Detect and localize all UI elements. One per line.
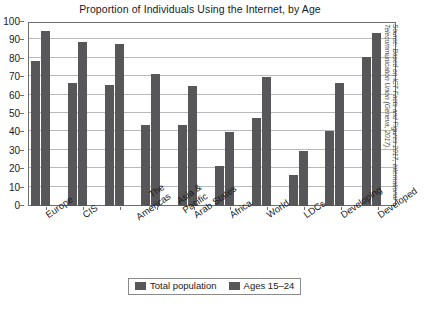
legend: Total populationAges 15–24 xyxy=(128,278,301,295)
y-tick-mark xyxy=(20,58,24,59)
y-tick-label: 100 xyxy=(3,17,20,27)
gridline xyxy=(29,57,395,58)
y-tick-mark xyxy=(20,168,24,169)
y-tick-mark xyxy=(20,150,24,151)
y-tick-mark xyxy=(20,131,24,132)
source-note-line-1: Source: Based on ICT Facts and Figures 2… xyxy=(391,24,399,206)
source-note-line-2: Telecommunication Union (Geneva, 2017). xyxy=(383,24,391,206)
y-tick-label: 90 xyxy=(9,35,20,45)
y-tick-label: 0 xyxy=(14,201,20,211)
x-axis: EuropeCISThe AmericasAsia & PacificArab … xyxy=(28,207,396,269)
y-tick-label: 40 xyxy=(9,127,20,137)
gridline xyxy=(29,112,395,113)
gridline xyxy=(29,75,395,76)
chart-figure: Proportion of Individuals Using the Inte… xyxy=(0,0,441,311)
gridline xyxy=(29,186,395,187)
y-tick-mark xyxy=(20,76,24,77)
y-tick-mark xyxy=(20,95,24,96)
y-tick-mark xyxy=(20,39,24,40)
legend-entry: Ages 15–24 xyxy=(229,281,295,291)
legend-entry: Total population xyxy=(135,281,217,291)
legend-swatch xyxy=(135,282,146,290)
y-tick-label: 10 xyxy=(9,183,20,193)
legend-swatch xyxy=(229,282,240,290)
legend-label: Ages 15–24 xyxy=(244,281,295,291)
gridline xyxy=(29,130,395,131)
gridline xyxy=(29,149,395,150)
y-tick-label: 50 xyxy=(9,109,20,119)
y-tick-label: 60 xyxy=(9,91,20,101)
y-tick-mark xyxy=(20,21,24,22)
gridline xyxy=(29,38,395,39)
y-tick-mark xyxy=(20,113,24,114)
y-tick-label: 30 xyxy=(9,146,20,156)
source-note: Source: Based on ICT Facts and Figures 2… xyxy=(359,24,399,206)
y-axis: 0102030405060708090100 xyxy=(0,22,24,206)
y-tick-label: 70 xyxy=(9,72,20,82)
y-tick-mark xyxy=(20,187,24,188)
y-tick-label: 80 xyxy=(9,54,20,64)
y-tick-label: 20 xyxy=(9,164,20,174)
gridline xyxy=(29,94,395,95)
legend-label: Total population xyxy=(150,281,217,291)
gridline xyxy=(29,167,395,168)
y-tick-mark xyxy=(20,205,24,206)
page-title: Proportion of Individuals Using the Inte… xyxy=(0,3,400,15)
plot-area xyxy=(28,22,396,206)
